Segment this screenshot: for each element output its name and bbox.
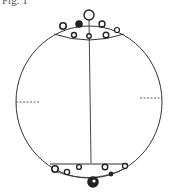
bottom-lower-arc [52,168,126,178]
particle-highlight [92,179,95,182]
particle-icon [102,164,108,170]
sphere-diagram [0,0,172,194]
bottom-particles [52,164,128,188]
particle-icon [123,164,128,169]
particle-icon [103,32,109,38]
particle-icon [60,23,66,29]
particle-icon [72,33,77,38]
top-particles [60,10,120,38]
particle-icon [115,28,120,33]
particle-icon [99,21,105,27]
particle-icon [77,165,82,170]
particle-icon [76,21,82,27]
particle-icon [109,172,113,176]
particle-icon [84,10,94,20]
particle-icon [52,166,58,172]
particle-icon [87,34,91,38]
particle-icon [64,169,69,174]
